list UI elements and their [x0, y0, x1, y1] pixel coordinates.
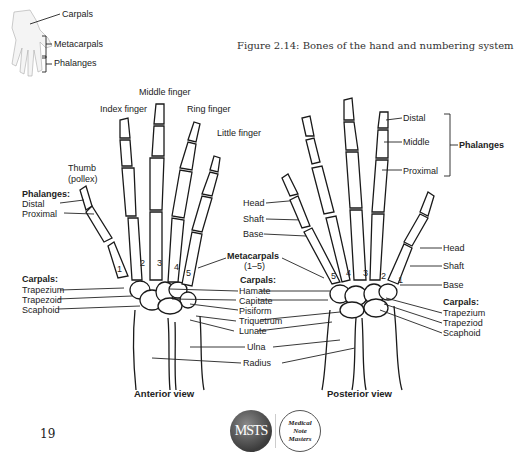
label-trapezoid-left: Trapezoid: [22, 296, 62, 305]
page-number: 19: [40, 427, 55, 441]
label-triquetrum: Triquetrum: [239, 317, 282, 326]
logo-word-medical: Medical: [288, 419, 311, 427]
label-pollex: (pollex): [68, 175, 98, 184]
svg-text:1: 1: [398, 275, 403, 285]
svg-text:3: 3: [363, 268, 368, 278]
label-metacarpals: Metacarpals: [227, 252, 279, 261]
thumbnail-label-carpals: Carpals: [62, 10, 93, 19]
label-radius: Radius: [243, 359, 271, 368]
svg-text:1: 1: [117, 264, 122, 274]
svg-text:5: 5: [331, 271, 336, 281]
label-scaphoid-right: Scaphoid: [443, 329, 481, 338]
figure-caption: Figure 2.14: Bones of the hand and numbe…: [237, 40, 514, 51]
label-metacarpal-head: Head: [243, 199, 265, 208]
thumbnail-hand-icon: [12, 10, 60, 76]
label-carpals-left-title: Carpals:: [22, 275, 58, 284]
label-hamate: Hamate: [239, 287, 271, 296]
msts-logo-text: MSTS: [235, 423, 268, 439]
label-pisiform: Pisiform: [239, 307, 272, 316]
medical-note-masters-logo: Medical Note Masters: [279, 410, 321, 452]
logo-word-masters: Masters: [289, 435, 312, 443]
label-metacarpals-range: (1–5): [244, 262, 265, 271]
label-base-posterior: Base: [443, 281, 464, 290]
msts-logo: MSTS: [230, 410, 272, 452]
thumbnail-label-metacarpals: Metacarpals: [54, 40, 103, 49]
label-trapezium-left: Trapezium: [22, 286, 64, 295]
posterior-hand: 5 4 3 2 1: [282, 98, 458, 390]
svg-text:5: 5: [186, 268, 191, 278]
svg-text:4: 4: [346, 268, 351, 278]
label-carpals-right-title: Carpals:: [443, 298, 479, 307]
label-phalanges-group: Phalanges: [459, 141, 504, 150]
label-anterior-view: Anterior view: [134, 388, 194, 399]
label-head-posterior: Head: [443, 244, 465, 253]
label-trapezium-right: Trapezium: [443, 309, 485, 318]
label-scaphoid-left: Scaphoid: [22, 306, 60, 315]
label-distal-posterior: Distal: [403, 114, 426, 123]
label-proximal-posterior: Proximal: [403, 167, 438, 176]
svg-text:2: 2: [381, 271, 386, 281]
label-phalanges-title: Phalanges:: [22, 190, 70, 199]
logo-word-note: Note: [293, 427, 307, 435]
svg-text:2: 2: [140, 258, 145, 268]
label-ulna: Ulna: [247, 343, 266, 352]
label-capitate: Capitate: [239, 297, 273, 306]
label-little-finger: Little finger: [217, 129, 261, 138]
label-trapeziod-right: Trapeziod: [443, 319, 483, 328]
label-lunate: Lunate: [239, 327, 267, 336]
label-shaft-posterior: Shaft: [443, 262, 464, 271]
label-metacarpal-base: Base: [243, 230, 264, 239]
label-middle-finger: Middle finger: [139, 88, 191, 97]
label-distal: Distal: [22, 200, 45, 209]
thumbnail-label-phalanges: Phalanges: [54, 59, 97, 68]
svg-text:3: 3: [157, 258, 162, 268]
svg-text:4: 4: [174, 262, 179, 272]
label-metacarpal-shaft: Shaft: [243, 215, 264, 224]
label-ring-finger: Ring finger: [187, 105, 231, 114]
label-carpals-center-title: Carpals:: [240, 276, 276, 285]
label-posterior-view: Posterior view: [327, 388, 392, 399]
logo-divider: [275, 414, 276, 448]
label-index-finger: Index finger: [100, 105, 147, 114]
label-thumb: Thumb: [68, 164, 96, 173]
label-proximal: Proximal: [22, 210, 57, 219]
label-middle-posterior: Middle: [403, 138, 430, 147]
